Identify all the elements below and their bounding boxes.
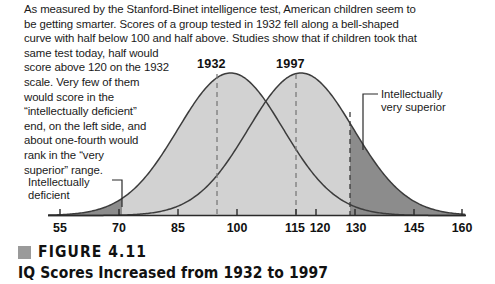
figure-title: IQ Scores Increased from 1932 to 1997	[18, 264, 478, 282]
x-tick-label-145: 145	[404, 221, 425, 235]
peak-label-1932: 1932	[197, 57, 226, 71]
x-tick-label-70: 70	[112, 221, 126, 235]
x-tick-label-85: 85	[171, 221, 185, 235]
caption-swatch-icon	[18, 246, 31, 259]
x-tick-label-115: 115	[285, 221, 305, 235]
x-tick-label-160: 160	[452, 221, 473, 235]
annotation-line: Intellectually	[381, 88, 446, 101]
chart-svg	[0, 0, 495, 240]
figure-number: FIGURE 4.11	[38, 243, 147, 261]
x-tick-label-55: 55	[53, 221, 67, 235]
iq-distribution-chart: 1932 1997 Intellectually deficient Intel…	[0, 0, 495, 240]
figure-caption-row: FIGURE 4.11	[18, 243, 478, 261]
annotation-line: Intellectually	[28, 176, 90, 189]
x-tick-label-130: 130	[346, 221, 367, 235]
annotation-line: deficient	[28, 189, 90, 202]
peak-label-1997: 1997	[276, 57, 305, 71]
leader-line-superior	[363, 94, 378, 150]
figure-page: As measured by the Stanford-Binet intell…	[0, 0, 495, 284]
x-tick-label-120: 120	[310, 221, 331, 235]
annotation-line: very superior	[381, 101, 446, 114]
annotation-very-superior: Intellectually very superior	[381, 88, 446, 114]
figure-caption: FIGURE 4.11 IQ Scores Increased from 193…	[18, 243, 478, 282]
annotation-intellectually-deficient: Intellectually deficient	[28, 176, 90, 202]
x-tick-label-100: 100	[227, 221, 248, 235]
